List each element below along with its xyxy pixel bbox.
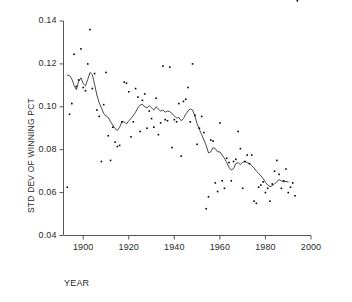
scatter-point xyxy=(183,101,185,103)
scatter-data-points xyxy=(66,0,298,209)
scatter-point xyxy=(126,82,128,84)
scatter-point xyxy=(230,180,232,182)
scatter-point xyxy=(103,104,105,106)
scatter-point xyxy=(251,154,253,156)
scatter-point xyxy=(135,88,137,90)
scatter-point xyxy=(294,195,296,197)
scatter-point xyxy=(260,184,262,186)
chart-figure: 0.040.060.080.100.120.141900192019401960… xyxy=(0,0,352,302)
scatter-point xyxy=(281,188,283,190)
scatter-point xyxy=(151,118,153,120)
y-tick-label: 0.04 xyxy=(39,230,57,240)
scatter-point xyxy=(178,103,180,105)
x-axis-ticks xyxy=(83,236,311,240)
x-tick-label: 1960 xyxy=(206,242,234,252)
x-tick-label: 1900 xyxy=(69,242,97,252)
scatter-point xyxy=(158,134,160,136)
scatter-point xyxy=(196,144,198,146)
trend-line-path xyxy=(67,72,288,186)
scatter-point xyxy=(180,155,182,157)
y-tick-label: 0.10 xyxy=(39,101,57,111)
y-tick-label: 0.12 xyxy=(39,58,57,68)
scatter-point xyxy=(107,135,109,137)
scatter-point xyxy=(290,186,292,188)
scatter-point xyxy=(94,73,96,75)
scatter-point xyxy=(162,65,164,67)
scatter-point xyxy=(87,63,89,65)
scatter-point xyxy=(271,183,273,185)
scatter-point xyxy=(153,126,155,128)
scatter-point xyxy=(253,200,255,202)
x-tick-label: 1980 xyxy=(251,242,279,252)
trend-line xyxy=(67,72,288,186)
scatter-point xyxy=(199,127,201,129)
scatter-point xyxy=(160,122,162,124)
scatter-point xyxy=(262,181,264,183)
y-tick-label: 0.06 xyxy=(39,187,57,197)
scatter-point xyxy=(287,192,289,194)
scatter-point xyxy=(205,208,207,210)
scatter-point xyxy=(194,115,196,117)
scatter-point xyxy=(249,163,251,165)
scatter-point xyxy=(164,119,166,121)
scatter-point xyxy=(226,157,228,159)
scatter-point xyxy=(217,191,219,193)
scatter-point xyxy=(144,93,146,95)
scatter-point xyxy=(71,103,73,105)
scatter-point xyxy=(219,122,221,124)
scatter-point xyxy=(258,186,260,188)
scatter-point xyxy=(215,182,217,184)
scatter-point xyxy=(256,203,258,205)
scatter-point xyxy=(228,162,230,164)
scatter-point xyxy=(246,154,248,156)
scatter-point xyxy=(112,126,114,128)
scatter-point xyxy=(89,29,91,31)
scatter-point xyxy=(283,180,285,182)
scatter-point xyxy=(82,87,84,89)
scatter-point xyxy=(276,160,278,162)
y-tick-label: 0.14 xyxy=(39,15,57,25)
scatter-point xyxy=(146,127,148,129)
scatter-point xyxy=(297,0,299,2)
scatter-point xyxy=(203,132,205,134)
scatter-point xyxy=(85,90,87,92)
scatter-point xyxy=(78,79,80,81)
scatter-point xyxy=(98,116,100,118)
scatter-point xyxy=(167,120,169,122)
scatter-point xyxy=(242,188,244,190)
scatter-point xyxy=(235,159,237,161)
scatter-point xyxy=(76,86,78,88)
x-tick-label: 2000 xyxy=(297,242,325,252)
scatter-point xyxy=(240,148,242,150)
scatter-point xyxy=(237,131,239,133)
scatter-point xyxy=(210,139,212,141)
scatter-point xyxy=(139,131,141,133)
scatter-point xyxy=(148,110,150,112)
scatter-point xyxy=(105,72,107,74)
scatter-point xyxy=(171,147,173,149)
scatter-point xyxy=(133,121,135,123)
x-axis-title: YEAR xyxy=(64,278,89,288)
scatter-point xyxy=(187,87,189,89)
y-axis-ticks xyxy=(60,21,64,236)
scatter-point xyxy=(265,192,267,194)
scatter-point xyxy=(130,136,132,138)
x-tick-label: 1920 xyxy=(115,242,143,252)
y-tick-label: 0.08 xyxy=(39,144,57,154)
scatter-point xyxy=(292,182,294,184)
scatter-point xyxy=(212,140,214,142)
scatter-point xyxy=(267,188,269,190)
scatter-point xyxy=(192,63,194,65)
scatter-point xyxy=(128,91,130,93)
scatter-point xyxy=(66,186,68,188)
scatter-point xyxy=(142,100,144,102)
scatter-point xyxy=(274,170,276,172)
scatter-point xyxy=(278,174,280,176)
scatter-point xyxy=(269,200,271,202)
scatter-point xyxy=(73,53,75,55)
scatter-point xyxy=(114,141,116,143)
scatter-point xyxy=(189,121,191,123)
scatter-point xyxy=(69,114,71,116)
scatter-point xyxy=(224,188,226,190)
scatter-point xyxy=(155,97,157,99)
